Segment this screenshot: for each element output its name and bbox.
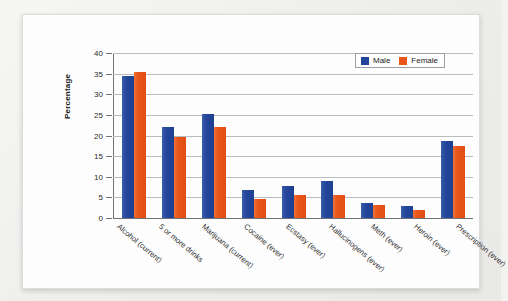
bar-group xyxy=(114,53,154,218)
bar-male[interactable] xyxy=(361,203,373,218)
y-tick-label-0: 0 xyxy=(99,214,103,223)
x-axis-label: Heroin (ever) xyxy=(412,222,452,257)
bar-female[interactable] xyxy=(134,72,146,218)
y-tick-35 xyxy=(106,74,112,75)
legend-label-male: Male xyxy=(373,56,390,65)
y-tick-label-15: 15 xyxy=(94,152,103,161)
y-tick-15 xyxy=(106,156,112,157)
bar-group xyxy=(234,53,274,218)
gridline-0 xyxy=(113,218,473,219)
bar-male[interactable] xyxy=(162,127,174,218)
bar-female[interactable] xyxy=(413,210,425,218)
y-tick-label-35: 35 xyxy=(94,69,103,78)
y-tick-label-5: 5 xyxy=(99,193,103,202)
bar-group xyxy=(393,53,433,218)
bar-female[interactable] xyxy=(254,199,266,218)
bar-group xyxy=(194,53,234,218)
bar-group xyxy=(313,53,353,218)
legend-item-male: Male xyxy=(361,56,390,65)
bar-group xyxy=(353,53,393,218)
y-axis-title: Percentage xyxy=(63,74,72,119)
y-tick-30 xyxy=(106,94,112,95)
bar-male[interactable] xyxy=(321,181,333,218)
bar-female[interactable] xyxy=(294,195,306,218)
y-tick-0 xyxy=(106,218,112,219)
bar-group xyxy=(433,53,473,218)
x-axis-label: 5 or more drinks xyxy=(157,222,205,264)
bar-male[interactable] xyxy=(122,76,134,218)
axis-box: 0510152025303540 xyxy=(113,53,473,218)
y-tick-5 xyxy=(106,197,112,198)
chart-legend: Male Female xyxy=(355,53,445,68)
legend-item-female: Female xyxy=(399,56,438,65)
y-tick-label-40: 40 xyxy=(94,49,103,58)
bar-group xyxy=(274,53,314,218)
x-axis-label: Ecstasy (ever) xyxy=(285,222,328,260)
legend-swatch-female-icon xyxy=(399,57,407,65)
bar-male[interactable] xyxy=(242,190,254,218)
x-axis-label: Prescription (ever) xyxy=(454,222,507,269)
y-tick-label-10: 10 xyxy=(94,172,103,181)
bar-male[interactable] xyxy=(202,114,214,218)
y-tick-10 xyxy=(106,177,112,178)
legend-swatch-male-icon xyxy=(361,57,369,65)
bar-female[interactable] xyxy=(174,137,186,218)
x-axis-label: Cocaine (ever) xyxy=(242,222,286,261)
y-tick-label-20: 20 xyxy=(94,131,103,140)
bar-male[interactable] xyxy=(441,141,453,218)
y-tick-20 xyxy=(106,136,112,137)
chart-card: Percentage 0510152025303540 Alcohol (cur… xyxy=(22,14,480,289)
bar-female[interactable] xyxy=(333,195,345,219)
bar-series-container xyxy=(114,53,473,218)
bar-male[interactable] xyxy=(401,206,413,218)
y-tick-40 xyxy=(106,53,112,54)
x-axis-labels: Alcohol (current)5 or more drinksMarijua… xyxy=(113,222,495,301)
y-tick-25 xyxy=(106,115,112,116)
bar-group xyxy=(154,53,194,218)
bar-female[interactable] xyxy=(214,127,226,218)
y-tick-label-30: 30 xyxy=(94,90,103,99)
y-tick-label-25: 25 xyxy=(94,110,103,119)
bar-male[interactable] xyxy=(282,186,294,218)
x-axis-label: Meth (ever) xyxy=(370,222,406,254)
legend-label-female: Female xyxy=(411,56,438,65)
bar-female[interactable] xyxy=(373,205,385,218)
bar-female[interactable] xyxy=(453,146,465,218)
